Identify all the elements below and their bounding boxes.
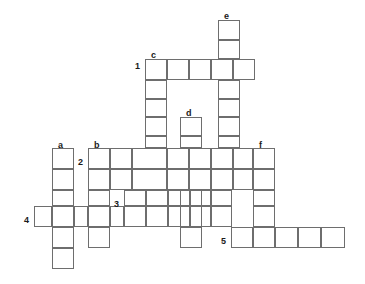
cell-r3b-5[interactable] [211,206,232,227]
cell-r2-c2[interactable] [110,148,132,169]
across-clue-number-1: 1 [135,61,140,71]
cell-d-1[interactable] [180,117,202,136]
cell-e-2[interactable] [218,40,240,59]
cell-r5-c5[interactable] [321,227,345,248]
cell-r5-c1[interactable] [231,227,253,248]
cell-e-5[interactable] [218,99,240,117]
cell-e-1[interactable] [218,20,240,40]
across-clue-number-2: 2 [78,157,83,167]
cell-c-2[interactable] [145,80,167,99]
cell-d-2a[interactable] [180,136,202,148]
cell-d-4b[interactable] [180,206,202,227]
cell-r2-c4[interactable] [167,148,189,169]
cell-e-6[interactable] [218,117,240,136]
cell-f-4[interactable] [253,206,275,227]
cell-e-4[interactable] [218,80,240,99]
cell-r3-c5[interactable] [211,190,232,206]
cell-f-3[interactable] [253,190,275,206]
cell-r2-c7[interactable] [233,148,253,169]
cell-a-4[interactable] [52,227,74,248]
cell-r4-c2[interactable] [52,206,74,227]
cell-r3b-2[interactable] [146,206,168,227]
down-clue-letter-b: b [94,140,100,150]
down-clue-letter-d: d [186,108,192,118]
cell-r4-c4[interactable] [88,206,110,227]
cell-a-3[interactable] [52,190,74,206]
down-clue-letter-f: f [259,140,262,150]
cell-c-5a[interactable] [145,136,167,148]
across-clue-number-4: 4 [24,215,29,225]
cell-d-4[interactable] [180,190,202,206]
cell-r1-c4[interactable] [211,59,233,80]
down-clue-letter-a: a [58,140,63,150]
cell-mid-1[interactable] [167,169,189,190]
cell-r5-c2[interactable] [253,227,275,248]
cell-r3-c2[interactable] [146,190,168,206]
cell-r1-c5[interactable] [233,59,255,80]
cell-r1-c3[interactable] [189,59,211,80]
cell-a-1[interactable] [52,148,74,169]
cell-c-3[interactable] [145,99,167,117]
cell-r2-c5[interactable] [189,148,211,169]
cell-c-6[interactable] [132,169,167,190]
cell-a-2[interactable] [52,169,74,190]
cell-e-8[interactable] [233,169,253,190]
cell-b-2[interactable] [88,169,110,190]
cell-r5-c3[interactable] [275,227,298,248]
cell-a-5[interactable] [52,248,74,269]
cell-mid-2[interactable] [211,169,233,190]
cell-r3-c1[interactable] [124,190,146,206]
cell-d-5[interactable] [180,227,202,248]
cell-r2-c1[interactable] [88,148,110,169]
cell-f-2[interactable] [253,169,275,190]
cell-r2-c8[interactable] [253,148,275,169]
cell-r4-c3[interactable] [74,206,88,227]
cell-e-7a[interactable] [218,136,240,148]
cell-r2-c3[interactable] [132,148,167,169]
down-clue-letter-c: c [151,50,156,60]
cell-r2-c6[interactable] [211,148,233,169]
cell-r4-c1[interactable] [34,206,52,227]
across-clue-number-5: 5 [221,236,226,246]
crossword-grid: 12345abcdef [0,0,365,284]
down-clue-letter-e: e [224,11,229,21]
cell-b-3[interactable] [88,190,110,206]
cell-r1-c2[interactable] [167,59,189,80]
cell-c-4[interactable] [145,117,167,136]
cell-b-4[interactable] [88,227,110,248]
cell-r3b-1[interactable] [124,206,146,227]
cell-r5-c4[interactable] [298,227,321,248]
cell-r1-c1[interactable] [145,59,167,80]
cell-b2-x[interactable] [110,169,132,190]
cell-r4-c5[interactable] [110,206,124,227]
cell-d-3[interactable] [189,169,211,190]
across-clue-number-3: 3 [114,199,119,209]
